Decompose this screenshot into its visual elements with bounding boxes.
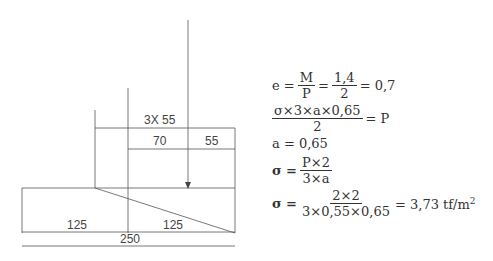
eq1-frac2-den: 2 xyxy=(338,86,350,101)
dim-250-label: 250 xyxy=(120,232,140,246)
eq5-frac-den: 3×0,55×0,65 xyxy=(300,204,392,219)
equation-sigma-formula: σ = P×2 3×a xyxy=(272,155,476,186)
eq5-rhs-wrap: = 3,73 tf/m2 xyxy=(395,194,476,212)
dim-left-125-label: 125 xyxy=(67,218,87,232)
eq5-rhs: = 3,73 tf/m xyxy=(395,198,470,213)
equation-eccentricity: e = M P = 1,4 2 = 0,7 xyxy=(272,70,476,101)
fraction-values: 1,4 2 xyxy=(332,70,357,101)
fraction-sigma-result: 2×2 3×0,55×0,65 xyxy=(300,188,392,219)
eq2-frac-num: σ×3×a×0,65 xyxy=(272,103,363,119)
fraction-m-over-p: M P xyxy=(298,70,315,101)
eq1-mid: = xyxy=(318,78,329,93)
eq1-frac2-num: 1,4 xyxy=(332,70,357,86)
equation-a-value: a = 0,65 xyxy=(272,136,476,151)
equations-panel: e = M P = 1,4 2 = 0,7 σ×3×a×0,65 2 = P a… xyxy=(272,70,476,219)
foundation-pressure-diagram: 3X 55 70 55 125 125 250 xyxy=(0,0,250,261)
equation-sigma-result: σ = 2×2 3×0,55×0,65 = 3,73 tf/m2 xyxy=(272,188,476,219)
eq5-frac-num: 2×2 xyxy=(330,188,361,204)
eq4-frac-num: P×2 xyxy=(300,155,332,171)
eq1-frac1-num: M xyxy=(298,70,315,86)
equation-equilibrium: σ×3×a×0,65 2 = P xyxy=(272,103,476,134)
eq1-lhs: e = xyxy=(272,78,295,93)
dim-right-125-label: 125 xyxy=(163,218,183,232)
eq5-lhs: σ = xyxy=(272,196,297,211)
eq2-rhs: = P xyxy=(366,111,390,126)
eq3-text: a = 0,65 xyxy=(272,136,328,151)
eq5-sup: 2 xyxy=(470,196,476,206)
dim-55-label: 55 xyxy=(205,134,219,148)
eq4-frac-den: 3×a xyxy=(301,171,332,186)
eq1-rhs: = 0,7 xyxy=(360,78,396,93)
fraction-equilibrium: σ×3×a×0,65 2 xyxy=(272,103,363,134)
fraction-sigma-formula: P×2 3×a xyxy=(300,155,332,186)
dim-3x55-label: 3X 55 xyxy=(144,113,176,127)
dim-70-label: 70 xyxy=(153,134,167,148)
eq2-frac-den: 2 xyxy=(311,119,323,134)
eq4-lhs: σ = xyxy=(272,163,297,178)
eq1-frac1-den: P xyxy=(300,86,313,101)
